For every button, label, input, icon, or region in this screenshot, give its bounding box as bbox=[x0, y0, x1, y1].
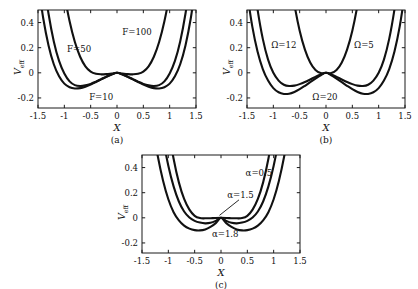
x-tick-label: 1.5 bbox=[398, 111, 412, 121]
x-tick-label: 1 bbox=[376, 111, 381, 121]
x-tick-label: -1.5 bbox=[134, 256, 150, 266]
curve-annotation: F=100 bbox=[122, 27, 152, 37]
plot-a: -1.5-1-0.500.511.5-0.200.20.4F=100F=50F=… bbox=[0, 0, 209, 145]
curve-annotation: Ω=5 bbox=[354, 40, 374, 50]
x-tick-label: 1 bbox=[271, 256, 276, 266]
x-axis-title: X bbox=[112, 122, 121, 133]
x-tick-label: 0 bbox=[114, 111, 119, 121]
curve-annotation: α=1.8 bbox=[212, 229, 239, 239]
y-tick-label: -0.2 bbox=[227, 93, 243, 103]
y-tick-label: 0 bbox=[238, 68, 243, 78]
y-axis-title-main: V bbox=[12, 68, 23, 75]
x-tick-label: 1 bbox=[167, 111, 172, 121]
plot-b: -1.5-1-0.500.511.5-0.200.20.4Ω=12Ω=5Ω=20… bbox=[209, 0, 418, 145]
x-tick-label: 1.5 bbox=[293, 256, 307, 266]
y-tick-label: 0 bbox=[29, 68, 34, 78]
panel-b: -1.5-1-0.500.511.5-0.200.20.4Ω=12Ω=5Ω=20… bbox=[209, 0, 418, 145]
y-tick-label: 0.4 bbox=[229, 18, 243, 28]
panel-caption: (c) bbox=[215, 280, 227, 289]
x-tick-label: 0 bbox=[323, 111, 328, 121]
curve-annotation: F=50 bbox=[67, 44, 91, 54]
x-tick-label: 1.5 bbox=[189, 111, 203, 121]
curve-annotation: α=0.5 bbox=[246, 168, 273, 178]
x-tick-label: -1 bbox=[269, 111, 277, 121]
y-axis-title-sub: eff bbox=[227, 60, 234, 68]
panel-c: -1.5-1-0.500.511.5-0.200.20.4α=0.5α=1.5α… bbox=[104, 145, 314, 289]
y-axis-title-sub: eff bbox=[122, 205, 129, 213]
y-tick-label: -0.2 bbox=[18, 93, 34, 103]
annotation-leader-line bbox=[219, 200, 239, 216]
y-axis-title: Veff bbox=[221, 60, 234, 75]
y-tick-label: 0.4 bbox=[124, 163, 138, 173]
curve-annotation: Ω=20 bbox=[312, 92, 337, 102]
x-tick-label: -0.5 bbox=[186, 256, 202, 266]
x-axis-title: X bbox=[216, 267, 225, 278]
y-tick-label: 0.2 bbox=[124, 188, 138, 198]
x-tick-label: -1 bbox=[60, 111, 68, 121]
x-tick-label: 0.5 bbox=[346, 111, 360, 121]
curve-annotation: F=10 bbox=[89, 92, 113, 102]
panel-caption: (a) bbox=[111, 135, 123, 145]
y-axis-title: Veff bbox=[12, 60, 25, 75]
y-axis-title-main: V bbox=[116, 213, 127, 220]
x-tick-label: -1.5 bbox=[239, 111, 255, 121]
curve-annotation: α=1.5 bbox=[227, 190, 254, 200]
y-axis-title: Veff bbox=[116, 205, 129, 220]
x-tick-label: -1.5 bbox=[30, 111, 46, 121]
y-tick-label: 0.2 bbox=[229, 43, 243, 53]
x-tick-label: 0.5 bbox=[137, 111, 151, 121]
plot-frame bbox=[38, 10, 196, 108]
x-tick-label: -1 bbox=[164, 256, 172, 266]
y-tick-label: 0.2 bbox=[20, 43, 34, 53]
y-axis-title-main: V bbox=[221, 68, 232, 75]
panel-caption: (b) bbox=[320, 135, 333, 145]
plot-c: -1.5-1-0.500.511.5-0.200.20.4α=0.5α=1.5α… bbox=[104, 145, 314, 289]
x-tick-label: 0.5 bbox=[241, 256, 255, 266]
x-axis-title: X bbox=[321, 122, 330, 133]
y-tick-label: 0.4 bbox=[20, 18, 34, 28]
x-tick-label: -0.5 bbox=[291, 111, 307, 121]
panel-a: -1.5-1-0.500.511.5-0.200.20.4F=100F=50F=… bbox=[0, 0, 209, 145]
curve-annotation: Ω=12 bbox=[271, 40, 296, 50]
x-tick-label: 0 bbox=[218, 256, 223, 266]
y-tick-label: -0.2 bbox=[122, 238, 138, 248]
y-tick-label: 0 bbox=[133, 213, 138, 223]
curve-F=10 bbox=[38, 0, 196, 89]
x-tick-label: -0.5 bbox=[82, 111, 98, 121]
y-axis-title-sub: eff bbox=[18, 60, 25, 68]
